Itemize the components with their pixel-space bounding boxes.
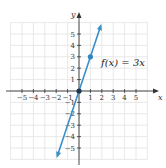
origin-point (76, 88, 81, 93)
x-tick-label: 3 (111, 94, 115, 102)
y-tick-label: 5 (71, 31, 75, 39)
function-graph: −5−4−3−2−112345−5−4−3−2−112345xy f(x) = … (0, 0, 166, 168)
arrow-up-icon (97, 24, 102, 31)
x-tick-label: −3 (40, 94, 50, 102)
x-tick-label: 4 (122, 94, 127, 102)
x-tick-label: −5 (17, 94, 27, 102)
y-tick-label: −5 (65, 145, 75, 153)
y-axis-label: y (70, 10, 76, 19)
x-tick-label: −2 (51, 94, 61, 102)
data-point (88, 54, 93, 59)
x-tick-label: 5 (134, 94, 138, 102)
arrow-down-icon (56, 151, 61, 158)
y-tick-label: 2 (71, 65, 75, 73)
y-axis-arrow-icon (77, 12, 82, 18)
y-tick-label: 1 (71, 76, 75, 84)
function-label: f(x) = 3x (100, 57, 145, 68)
y-tick-label: −4 (65, 133, 76, 141)
y-tick-label: 3 (71, 53, 75, 61)
x-tick-label: 1 (88, 94, 92, 102)
x-tick-label: 2 (100, 94, 104, 102)
x-axis-label: x (158, 93, 163, 102)
y-tick-label: 4 (71, 42, 76, 50)
tick-labels: −5−4−3−2−112345−5−4−3−2−112345xy (17, 10, 163, 153)
x-tick-label: −4 (28, 94, 39, 102)
